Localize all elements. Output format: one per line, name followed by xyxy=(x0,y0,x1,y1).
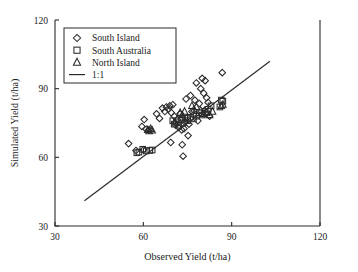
data-point-diamond xyxy=(195,117,202,124)
legend-label: 1:1 xyxy=(92,70,104,80)
data-point-diamond xyxy=(168,109,175,116)
x-tick-label: 60 xyxy=(139,232,149,242)
data-point-diamond xyxy=(179,141,186,148)
chart-legend: South IslandSouth AustraliaNorth Island1… xyxy=(64,28,176,83)
y-tick-label: 60 xyxy=(39,153,49,163)
y-axis-title: Simulated Yield (t/ha) xyxy=(9,79,21,168)
data-point-diamond xyxy=(180,153,187,160)
chart-canvas: 306090120306090120 South IslandSouth Aus… xyxy=(0,0,358,272)
data-point-diamond xyxy=(125,140,132,147)
scatter-plot-figure: 306090120306090120 South IslandSouth Aus… xyxy=(0,0,358,272)
y-tick-label: 120 xyxy=(34,16,49,26)
x-tick-label: 30 xyxy=(50,232,60,242)
data-point-diamond xyxy=(185,132,192,139)
data-point-diamond xyxy=(193,80,200,87)
data-point-diamond xyxy=(169,101,176,108)
x-tick-label: 120 xyxy=(313,232,328,242)
legend-label: North Island xyxy=(92,58,140,68)
data-point-diamond xyxy=(141,116,148,123)
data-point-diamond xyxy=(167,139,174,146)
data-point-diamond xyxy=(219,69,226,76)
data-point-diamond xyxy=(139,123,146,130)
y-tick-label: 30 xyxy=(39,222,49,232)
y-tick-label: 90 xyxy=(39,84,49,94)
x-axis-title: Observed Yield (t/ha) xyxy=(144,251,230,263)
x-tick-label: 90 xyxy=(227,232,237,242)
legend-label: South Island xyxy=(92,33,140,43)
legend-label: South Australia xyxy=(92,46,152,56)
